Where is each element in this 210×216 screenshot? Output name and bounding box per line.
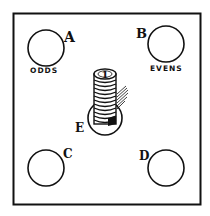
spot-b-circle [148, 26, 184, 62]
spot-c: C [28, 147, 73, 186]
spot-b: B EVENS [136, 26, 184, 73]
spot-a-circle [28, 30, 64, 66]
spot-d: D [139, 149, 184, 186]
spot-a-caption: ODDS [30, 66, 58, 75]
spot-c-label: C [63, 147, 73, 161]
coin-game-diagram: A ODDS B EVENS C D E [0, 0, 210, 216]
spot-d-circle [148, 150, 184, 186]
spot-a: A ODDS [28, 29, 76, 75]
spot-e-label: E [75, 121, 84, 135]
coin-stack-icon: 1 [94, 69, 128, 126]
top-coin-number: 1 [102, 69, 109, 80]
spot-c-circle [28, 150, 64, 186]
spot-b-caption: EVENS [150, 64, 183, 73]
spot-d-label: D [139, 149, 149, 163]
spot-a-label: A [63, 29, 76, 45]
spot-b-label: B [136, 26, 147, 41]
